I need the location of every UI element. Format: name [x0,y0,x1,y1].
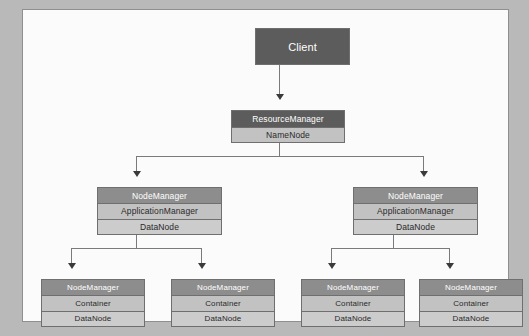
connector-bus-to-nodemanager-left [136,156,137,172]
arrowhead-nodemanager-right [420,171,428,177]
node-leaf-2-datanode: DataNode [172,311,274,326]
node-applicationmanager-right: ApplicationManager [354,203,477,218]
node-leaf-4[interactable]: NodeManager Container DataNode [419,279,523,327]
arrowhead-leaf-2 [198,263,206,269]
diagram-frame: Client ResourceManager NameNode NodeMana… [22,9,509,322]
connector-bus-to-leaf-3 [331,248,332,264]
node-datanode-right: DataNode [354,219,477,234]
arrowhead-nodemanager-left [133,171,141,177]
node-client[interactable]: Client [255,28,350,65]
node-datanode-left: DataNode [98,219,221,234]
arrowhead-resourcemanager [276,94,284,100]
node-nodemanager-right-title: NodeManager [354,188,477,203]
node-nodemanager-left-title: NodeManager [98,188,221,203]
connector-tier3-bus-right [331,248,449,249]
node-leaf-2[interactable]: NodeManager Container DataNode [171,279,275,327]
connector-bus-to-leaf-2 [201,248,202,264]
arrowhead-leaf-4 [446,263,454,269]
node-leaf-2-nodemanager: NodeManager [172,280,274,295]
node-resourcemanager-label: ResourceManager [232,111,344,127]
node-leaf-3-nodemanager: NodeManager [302,280,404,295]
arrowhead-leaf-3 [328,263,336,269]
arrowhead-leaf-1 [68,263,76,269]
node-leaf-3-datanode: DataNode [302,311,404,326]
node-namenode-label: NameNode [232,127,344,143]
node-leaf-1[interactable]: NodeManager Container DataNode [41,279,145,327]
node-leaf-2-container: Container [172,295,274,310]
node-nodemanager-right[interactable]: NodeManager ApplicationManager DataNode [353,187,478,235]
node-client-label: Client [256,29,349,64]
node-leaf-1-container: Container [42,295,144,310]
connector-bus-to-leaf-4 [449,248,450,264]
node-leaf-4-datanode: DataNode [420,311,522,326]
connector-tier3-bus-left [71,248,202,249]
diagram-canvas: Client ResourceManager NameNode NodeMana… [0,0,529,336]
node-leaf-1-datanode: DataNode [42,311,144,326]
node-leaf-3-container: Container [302,295,404,310]
node-applicationmanager-left: ApplicationManager [98,203,221,218]
connector-bus-to-nodemanager-right [423,156,424,172]
node-leaf-4-container: Container [420,295,522,310]
node-nodemanager-left[interactable]: NodeManager ApplicationManager DataNode [97,187,222,235]
connector-bus-to-leaf-1 [71,248,72,264]
node-leaf-3[interactable]: NodeManager Container DataNode [301,279,405,327]
node-leaf-4-nodemanager: NodeManager [420,280,522,295]
connector-tier2-bus [136,156,423,157]
node-resourcemanager[interactable]: ResourceManager NameNode [231,110,345,143]
node-leaf-1-nodemanager: NodeManager [42,280,144,295]
